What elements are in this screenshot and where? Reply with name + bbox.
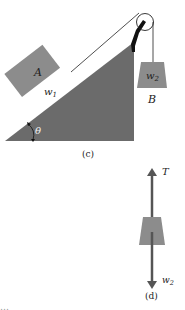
angle-theta-label: θ [35,125,41,136]
tension-label: T [162,166,170,177]
weight-label: w2 [162,275,174,287]
diagram-canvas: A w1 w2 B θ (c) T w2 (d) [0,0,185,310]
figure-d-label: (d) [145,291,158,301]
weight-arrowhead-icon [147,281,157,289]
figure-c-label: (c) [82,149,94,159]
pulley-bracket [131,20,146,52]
block-a-label: A [33,66,42,79]
caption-fragment: … [0,303,185,310]
block-b-label: B [147,93,156,106]
tension-arrowhead-icon [147,168,157,176]
block-a-weight: w1 [44,86,57,99]
